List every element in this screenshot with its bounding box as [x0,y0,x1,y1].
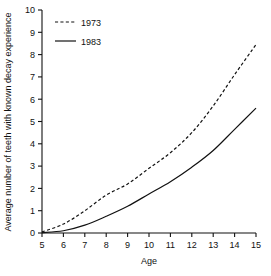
x-axis-tick-labels: 56789101112131415 [39,240,261,250]
x-tick-label-9: 9 [125,240,130,250]
x-tick-label-13: 13 [208,240,218,250]
y-tick-label-10: 10 [25,5,35,15]
y-axis-title: Average number of teeth with known decay… [3,13,13,232]
y-tick-label-3: 3 [30,161,35,171]
x-axis-title: Age [141,256,157,266]
legend-label-1973: 1973 [81,18,101,28]
x-tick-label-11: 11 [166,240,175,250]
legend-item-1983: 1983 [55,37,101,47]
legend-item-1973: 1973 [55,18,101,28]
y-axis-ticks [38,10,42,233]
x-tick-label-15: 15 [251,240,261,250]
x-tick-label-5: 5 [39,240,44,250]
x-tick-label-8: 8 [104,240,109,250]
chart-container: 012345678910 56789101112131415 1973 1983… [0,0,271,276]
legend: 1973 1983 [55,18,101,47]
decay-experience-line-chart: 012345678910 56789101112131415 1973 1983… [0,0,271,276]
series-line-1973 [42,45,256,232]
x-tick-label-12: 12 [187,240,197,250]
series-lines [42,45,256,233]
x-axis: 56789101112131415 [39,233,261,250]
legend-label-1983: 1983 [81,37,101,47]
x-tick-label-14: 14 [230,240,240,250]
series-line-1983 [42,108,256,232]
y-tick-label-2: 2 [30,184,35,194]
y-tick-label-5: 5 [30,117,35,127]
x-axis-ticks [42,233,256,237]
y-tick-label-6: 6 [30,95,35,105]
y-axis-tick-labels: 012345678910 [25,5,35,238]
y-tick-label-9: 9 [30,28,35,38]
y-tick-label-1: 1 [30,206,35,216]
y-axis: 012345678910 [25,5,42,238]
x-tick-label-7: 7 [82,240,87,250]
y-tick-label-7: 7 [30,72,35,82]
y-tick-label-4: 4 [30,139,35,149]
x-tick-label-10: 10 [144,240,154,250]
x-tick-label-6: 6 [61,240,66,250]
y-tick-label-0: 0 [30,228,35,238]
y-tick-label-8: 8 [30,50,35,60]
